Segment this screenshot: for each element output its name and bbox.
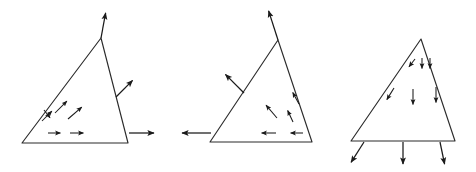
base-normal-arrow-right [440, 142, 445, 164]
left-triangle-outline [22, 38, 128, 143]
middle-triangle-field-arrows [262, 92, 303, 133]
field-arrow-1 [55, 101, 67, 113]
right-triangle-outline [351, 39, 455, 141]
right-triangle-field-arrows [387, 58, 436, 104]
field-arrow-3 [288, 110, 293, 122]
middle-triangle-outline [210, 40, 312, 142]
triangles-vector-field-figure [0, 0, 476, 172]
field-arrow-4 [387, 88, 394, 100]
panel-right [351, 39, 455, 164]
panel-middle [182, 11, 312, 142]
panel-left [22, 13, 154, 143]
middle-triangle-boundary-normals [182, 11, 278, 133]
left-triangle-boundary-normals [101, 13, 154, 133]
right-edge-normal-arrow [116, 80, 133, 97]
field-arrow-2 [266, 105, 277, 118]
apex-normal-arrow [101, 13, 106, 38]
apex-normal-arrow [269, 11, 278, 40]
field-arrow-2 [42, 111, 52, 121]
base-normal-arrow-left [351, 142, 364, 162]
field-arrow-1 [409, 59, 415, 67]
left-triangle-field-arrows [42, 101, 83, 133]
diagram-canvas [0, 0, 476, 172]
field-arrow-4 [68, 107, 82, 119]
left-edge-normal-arrow [225, 74, 244, 93]
right-triangle-boundary-normals [351, 142, 445, 164]
